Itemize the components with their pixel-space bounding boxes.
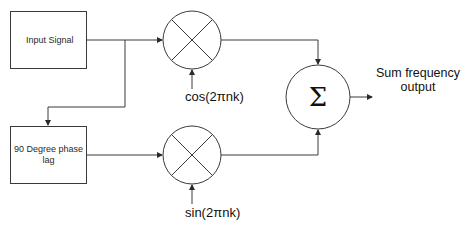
input-signal-block: Input Signal (10, 11, 87, 69)
sigma-symbol-icon: Σ (302, 80, 334, 114)
top-multiplier-to-summer-arrow (221, 40, 318, 64)
phase-lag-label-line2: lag (42, 155, 54, 166)
sin-carrier-label: sin(2πnk) (185, 206, 240, 220)
top-multiplier-icon (163, 11, 221, 69)
bottom-multiplier-to-summer-arrow (221, 130, 318, 155)
output-label: Sum frequency output (372, 66, 464, 94)
output-label-line1: Sum frequency (372, 66, 464, 80)
phase-lag-label-line1: 90 Degree phase (14, 144, 83, 155)
input-signal-label: Input Signal (26, 35, 74, 46)
cos-carrier-label: cos(2πnk) (185, 90, 244, 104)
output-label-line2: output (372, 80, 464, 94)
sum-frequency-diagram: Input Signal 90 Degree phase lag cos(2πn… (0, 0, 464, 229)
phase-lag-block: 90 Degree phase lag (10, 126, 87, 184)
bottom-multiplier-icon (163, 126, 221, 184)
